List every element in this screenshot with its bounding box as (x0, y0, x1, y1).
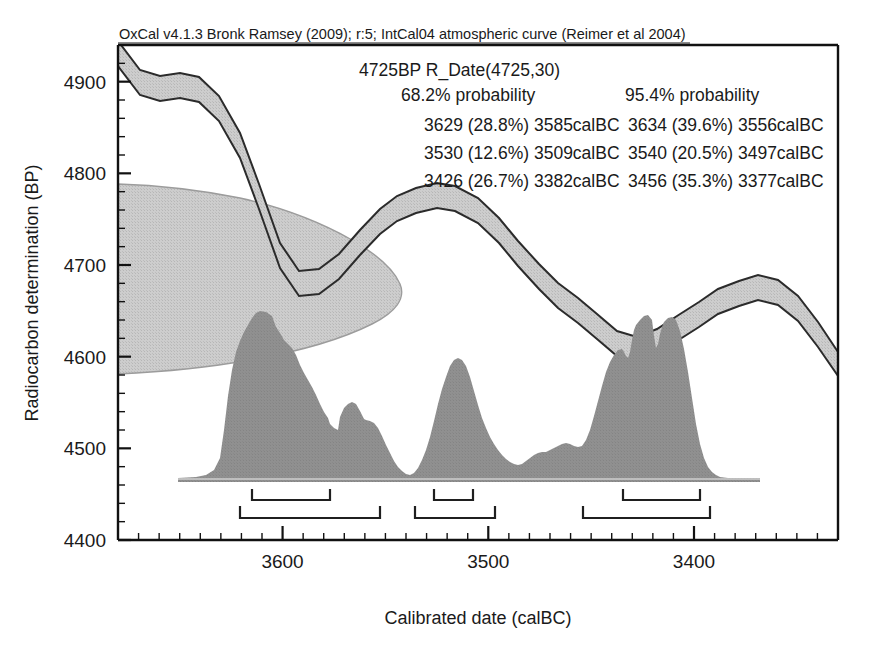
y-tick-label: 4600 (64, 347, 106, 368)
probability-68-heading: 68.2% probability (401, 85, 535, 105)
x-tick-label: 3600 (261, 551, 303, 572)
y-tick-label: 4400 (64, 530, 106, 551)
y-tick-label: 4800 (64, 163, 106, 184)
y-tick-label: 4500 (64, 438, 106, 459)
range-68-row-2: 3530 (12.6%) 3509calBC (424, 143, 620, 163)
probability-95-heading: 95.4% probability (625, 85, 759, 105)
sample-label: 4725BP R_Date(4725,30) (359, 60, 560, 81)
y-axis-tick-labels: 490048004700460045004400 (64, 72, 106, 551)
range-95-row-3: 3456 (35.3%) 3377calBC (628, 171, 824, 191)
y-axis-title: Radiocarbon determination (BP) (22, 164, 42, 421)
range-95-row-2: 3540 (20.5%) 3497calBC (628, 143, 824, 163)
x-tick-label: 3400 (673, 551, 715, 572)
y-tick-label: 4700 (64, 255, 106, 276)
y-tick-label: 4900 (64, 72, 106, 93)
x-axis-tick-labels: 360035003400 (261, 551, 715, 572)
oxcal-credit-line: OxCal v4.1.3 Bronk Ramsey (2009); r:5; I… (119, 26, 686, 42)
oxcal-plot-figure: 490048004700460045004400 360035003400 Ra… (0, 0, 871, 658)
radiocarbon-calibration-chart: 490048004700460045004400 360035003400 Ra… (0, 0, 871, 658)
range-95-row-1: 3634 (39.6%) 3556calBC (628, 115, 824, 135)
x-tick-label: 3500 (467, 551, 509, 572)
range-68-row-1: 3629 (28.8%) 3585calBC (424, 115, 620, 135)
range-68-row-3: 3426 (26.7%) 3382calBC (424, 171, 620, 191)
x-axis-title: Calibrated date (calBC) (384, 608, 571, 628)
